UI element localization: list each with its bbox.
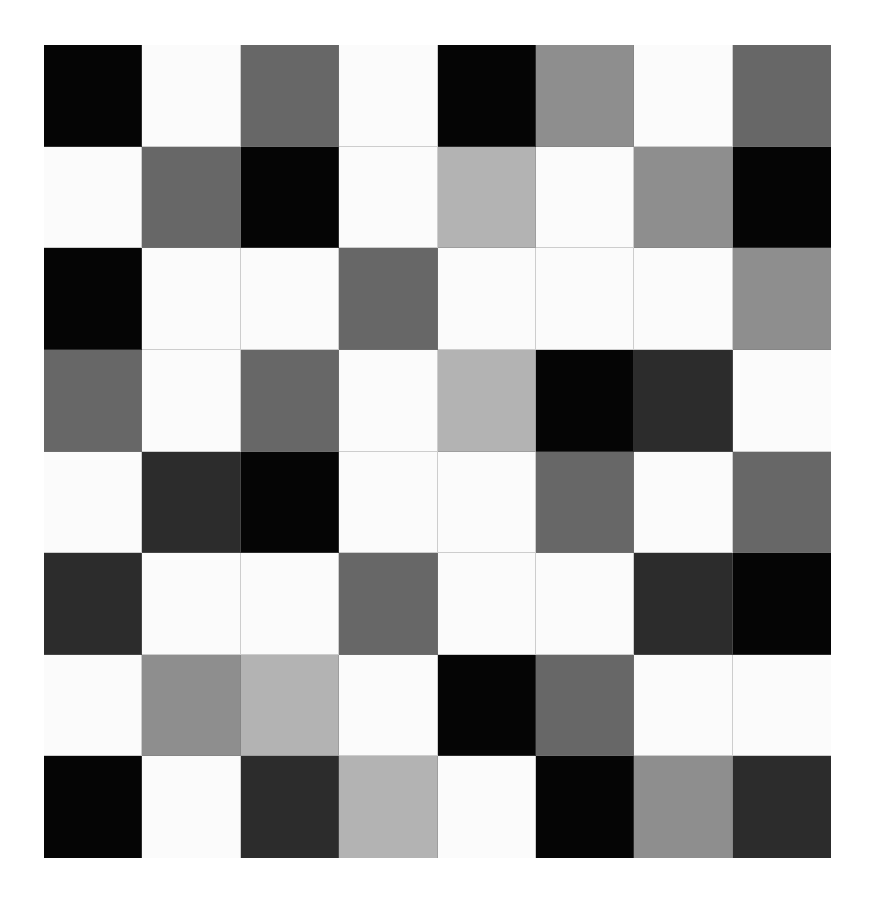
grid-cell <box>634 553 732 655</box>
grid-cell <box>733 45 831 147</box>
grid-cell <box>142 350 240 452</box>
grid-cell <box>438 756 536 858</box>
tile-grid <box>44 45 831 858</box>
grid-cell <box>44 553 142 655</box>
grid-cell <box>44 756 142 858</box>
grid-cell <box>241 756 339 858</box>
grid-cell <box>142 45 240 147</box>
grid-cell <box>634 350 732 452</box>
grid-cell <box>536 350 634 452</box>
grid-cell <box>634 147 732 249</box>
grid-cell <box>44 350 142 452</box>
grid-cell <box>634 655 732 757</box>
grid-cell <box>733 452 831 554</box>
grid-cell <box>536 248 634 350</box>
grid-cell <box>44 248 142 350</box>
grid-cell <box>733 248 831 350</box>
grid-cell <box>339 248 437 350</box>
grid-cell <box>44 452 142 554</box>
grid-cell <box>733 553 831 655</box>
grid-cell <box>536 756 634 858</box>
grid-cell <box>438 553 536 655</box>
grid-cell <box>733 655 831 757</box>
grid-cell <box>142 248 240 350</box>
grid-cell <box>438 147 536 249</box>
grid-cell <box>241 45 339 147</box>
grid-cell <box>634 45 732 147</box>
grid-cell <box>44 147 142 249</box>
grid-cell <box>339 452 437 554</box>
grid-cell <box>733 350 831 452</box>
grid-cell <box>241 147 339 249</box>
grid-cell <box>634 452 732 554</box>
grid-cell <box>536 655 634 757</box>
grid-cell <box>142 147 240 249</box>
grid-cell <box>142 756 240 858</box>
grid-cell <box>536 553 634 655</box>
grid-cell <box>241 553 339 655</box>
grid-cell <box>142 655 240 757</box>
grid-cell <box>339 553 437 655</box>
grid-cell <box>44 655 142 757</box>
grid-cell <box>142 452 240 554</box>
grid-cell <box>339 655 437 757</box>
grid-cell <box>44 45 142 147</box>
grid-cell <box>634 756 732 858</box>
grid-cell <box>339 45 437 147</box>
grid-cell <box>241 452 339 554</box>
grid-cell <box>241 655 339 757</box>
grid-cell <box>339 350 437 452</box>
grid-cell <box>438 452 536 554</box>
grid-cell <box>339 756 437 858</box>
grid-cell <box>438 655 536 757</box>
grid-cell <box>438 248 536 350</box>
grid-cell <box>733 147 831 249</box>
grid-cell <box>339 147 437 249</box>
grid-cell <box>536 45 634 147</box>
grid-cell <box>142 553 240 655</box>
grid-cell <box>438 45 536 147</box>
grid-cell <box>241 248 339 350</box>
grid-cell <box>536 147 634 249</box>
grid-cell <box>733 756 831 858</box>
grid-cell <box>536 452 634 554</box>
grid-cell <box>241 350 339 452</box>
grid-cell <box>438 350 536 452</box>
grid-cell <box>634 248 732 350</box>
